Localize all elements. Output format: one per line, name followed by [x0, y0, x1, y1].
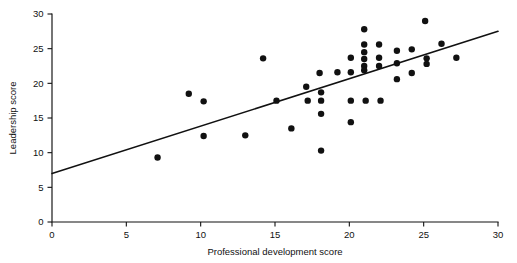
x-tick-label: 15 — [270, 229, 281, 240]
data-point — [361, 41, 367, 47]
x-tick-label: 0 — [49, 229, 54, 240]
y-tick-label: 10 — [33, 147, 44, 158]
data-point — [348, 97, 354, 103]
data-point — [318, 111, 324, 117]
data-point — [422, 18, 428, 24]
y-tick-label: 25 — [33, 43, 44, 54]
data-point — [273, 97, 279, 103]
y-axis-title: Leadership score — [7, 82, 18, 155]
x-tick-label: 30 — [493, 229, 504, 240]
x-tick-label: 10 — [195, 229, 206, 240]
x-tick-label: 20 — [344, 229, 355, 240]
data-points-group — [154, 18, 459, 161]
data-point — [318, 147, 324, 153]
data-point — [361, 67, 367, 73]
x-tick-label: 5 — [124, 229, 129, 240]
data-point — [154, 154, 160, 160]
data-point — [394, 48, 400, 54]
data-point — [334, 69, 340, 75]
data-point — [376, 63, 382, 69]
x-axis-title: Professional development score — [207, 246, 342, 257]
axes-group — [52, 14, 498, 222]
data-point — [186, 91, 192, 97]
tick-marks-group — [48, 14, 499, 227]
data-point — [361, 49, 367, 55]
data-point — [200, 133, 206, 139]
data-point — [394, 76, 400, 82]
data-point — [376, 54, 382, 60]
y-tick-label: 20 — [33, 78, 44, 89]
y-tick-label: 0 — [38, 216, 43, 227]
data-point — [394, 60, 400, 66]
data-point — [376, 41, 382, 47]
data-point — [423, 55, 429, 61]
data-point — [318, 89, 324, 95]
data-point — [438, 41, 444, 47]
y-tick-label: 30 — [33, 8, 44, 19]
chart-canvas: 051015202530 051015202530 Professional d… — [0, 0, 517, 263]
y-tick-label: 15 — [33, 112, 44, 123]
scatter-plot-figure: 051015202530 051015202530 Professional d… — [0, 0, 517, 263]
data-point — [409, 70, 415, 76]
y-tick-label: 5 — [38, 182, 43, 193]
x-axis-tick-labels: 051015202530 — [49, 229, 503, 240]
data-point — [453, 54, 459, 60]
data-point — [242, 132, 248, 138]
data-point — [423, 61, 429, 67]
data-point — [260, 55, 266, 61]
data-point — [361, 26, 367, 32]
data-point — [361, 56, 367, 62]
data-point — [305, 97, 311, 103]
data-point — [288, 125, 294, 131]
data-point — [409, 46, 415, 52]
data-point — [303, 84, 309, 90]
data-point — [200, 98, 206, 104]
data-point — [318, 97, 324, 103]
data-point — [377, 97, 383, 103]
x-tick-label: 25 — [418, 229, 429, 240]
data-point — [316, 70, 322, 76]
data-point — [348, 54, 354, 60]
data-point — [348, 69, 354, 75]
y-axis-tick-labels: 051015202530 — [33, 8, 44, 227]
data-point — [362, 97, 368, 103]
data-point — [348, 119, 354, 125]
axis-lines — [52, 14, 498, 222]
